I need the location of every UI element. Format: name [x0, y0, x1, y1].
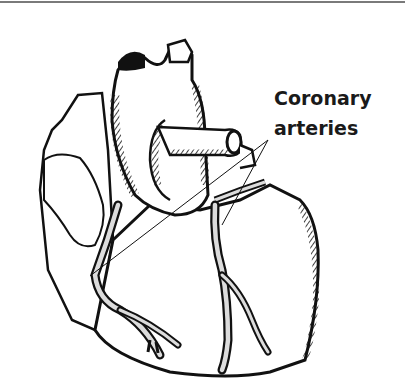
aorta-top-vessel — [168, 40, 192, 62]
pulmonary-stub — [240, 145, 255, 168]
heart-illustration — [0, 0, 405, 392]
aorta-top-cap — [118, 52, 145, 71]
pulmonary-opening — [227, 131, 241, 153]
label-arteries: arteries — [274, 117, 358, 139]
label-coronary: Coronary — [274, 87, 372, 109]
ventricle — [95, 185, 318, 376]
